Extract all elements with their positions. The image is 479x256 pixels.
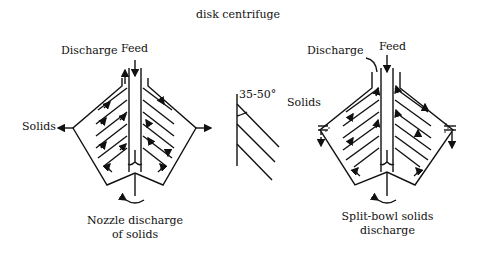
left-bowl-outline	[73, 78, 196, 185]
right-centrifuge	[318, 55, 456, 203]
right-bowl-outline	[320, 72, 453, 185]
disk-angle-detail	[237, 94, 279, 180]
centrifuge-drawings	[0, 0, 479, 256]
right-discharge-pointer	[366, 58, 377, 72]
left-centrifuge	[58, 60, 211, 203]
